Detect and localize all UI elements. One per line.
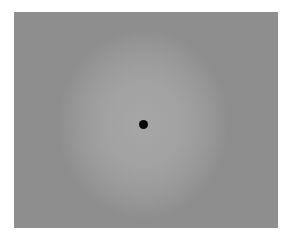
gray-field xyxy=(14,12,278,228)
center-dot xyxy=(139,120,148,129)
image-canvas xyxy=(0,0,288,236)
